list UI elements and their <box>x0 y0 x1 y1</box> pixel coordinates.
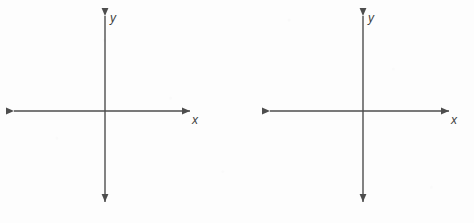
right-plane-x-axis-label: x <box>450 113 458 127</box>
left-plane-x-axis-label: x <box>191 113 199 127</box>
left-coordinate-plane: x y <box>0 0 237 223</box>
right-coordinate-plane: x y <box>237 0 474 223</box>
worksheet-page: x y x y <box>0 0 474 223</box>
left-plane-y-axis-label: y <box>109 11 117 25</box>
right-plane-y-axis-label: y <box>367 11 375 25</box>
right-plane-canvas: x y <box>237 0 474 223</box>
left-plane-canvas: x y <box>0 0 237 223</box>
